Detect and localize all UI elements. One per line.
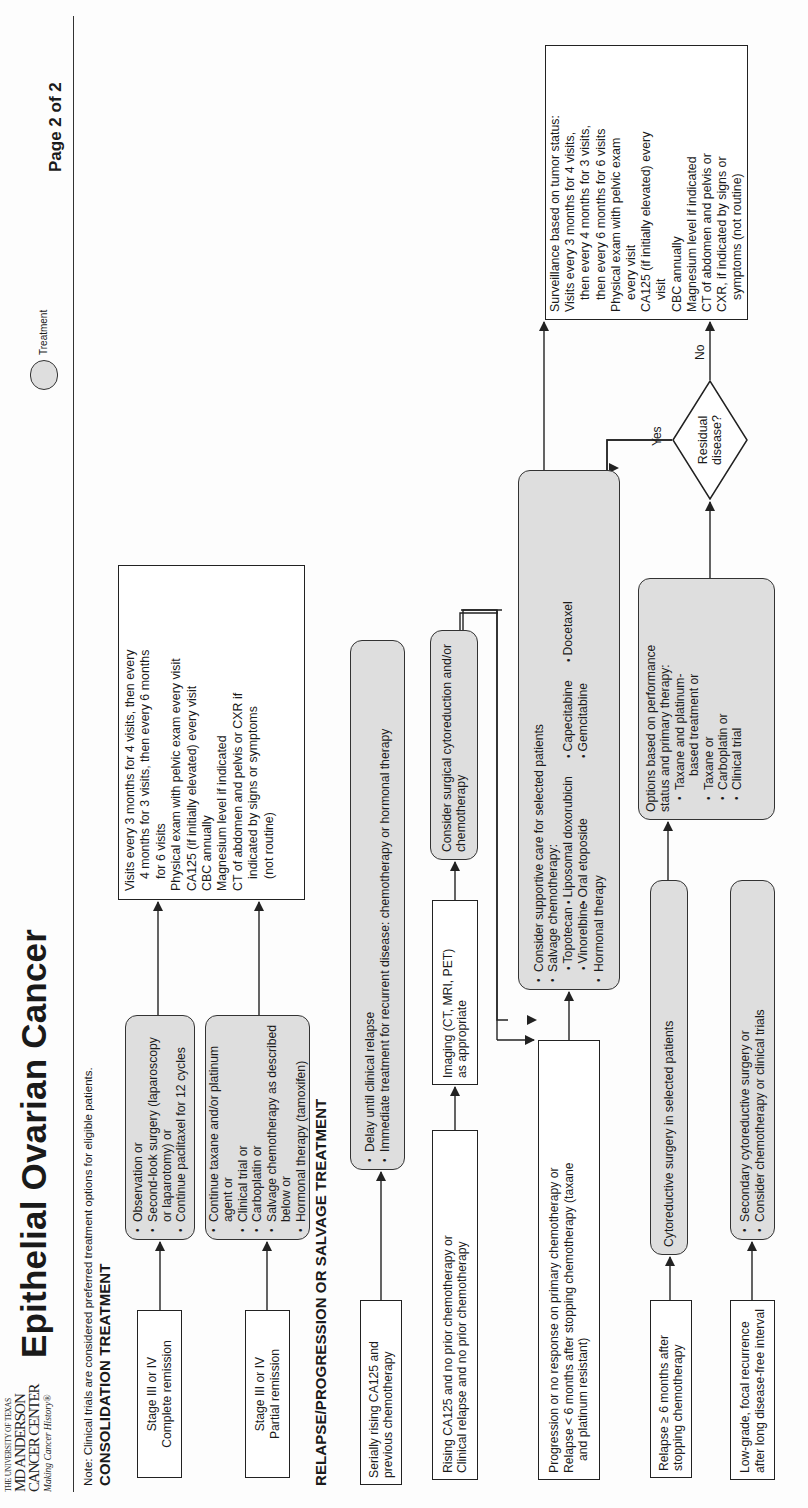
treatment-item: Continue taxane and/or platinum agent or xyxy=(207,1023,236,1232)
flowchart-page: THE UNIVERSITY OF TEXAS MD ANDERSON CANC… xyxy=(0,0,808,1508)
surveillance-line: Visits every 3 months for 4 visits, then… xyxy=(123,574,138,891)
decision-yes-label: Yes xyxy=(650,426,664,446)
decision-label-line: disease? xyxy=(710,400,724,480)
decision-label: Residual disease? xyxy=(696,400,724,480)
condition-no-prior-chemotherapy: Rising CA125 and no prior chemotherapy o… xyxy=(432,1130,478,1480)
imaging-step: Imaging (CT, MRI, PET) as appropriate xyxy=(432,900,478,1085)
treatment-item: Secondary cytoreductive surgery or xyxy=(738,888,752,1232)
logo-line-3: CANCER CENTER xyxy=(27,1362,41,1492)
surveillance-line: Magnesium level if indicated xyxy=(685,53,700,312)
condition-late-relapse: Relapse ≥ 6 months after stopping chemot… xyxy=(650,1300,692,1478)
surveillance-line: CBC annually xyxy=(200,574,215,891)
condition-line: Progression or no response on primary ch… xyxy=(547,1047,561,1473)
treatment-partial-remission: Continue taxane and/or platinum agent or… xyxy=(205,1015,310,1240)
options-intro-line: Options based on performance xyxy=(644,586,658,812)
option-item-continuation: based treatment or xyxy=(687,586,701,812)
surveillance-line: CT of abdomen and pelvis or CXR if xyxy=(231,574,246,891)
surveillance-line: 4 months for 3 visits, then every 6 mont… xyxy=(138,574,153,891)
surveillance-line: then every 6 months for 6 visits xyxy=(594,53,609,312)
decision-no-label: No xyxy=(693,345,707,360)
treatment-salvage-chemotherapy: Consider supportive care for selected pa… xyxy=(518,470,620,990)
surveillance-consolidation: Visits every 3 months for 4 visits, then… xyxy=(118,565,305,900)
condition-line: Rising CA125 and no prior chemotherapy o… xyxy=(441,1137,455,1473)
clinical-trials-note: Note: Clinical trials are considered pre… xyxy=(82,1067,94,1486)
treatment-item: Immediate treatment for recurrent diseas… xyxy=(378,648,392,1162)
drug-topotecan: Topotecan xyxy=(561,907,575,963)
surveillance-relapse: Surveillance based on tumor status: Visi… xyxy=(545,45,748,320)
condition-line: Relapse < 6 months after stopping chemot… xyxy=(562,1047,576,1473)
treatment-item: Continue paclitaxel for 12 cycles xyxy=(174,1023,188,1232)
treatment-line: chemotherapy xyxy=(454,638,468,852)
treatment-item: Observation or xyxy=(131,1023,145,1232)
surveillance-line: CBC annually xyxy=(670,53,685,312)
surveillance-line: for 6 visits xyxy=(154,574,169,891)
option-item: Taxane or xyxy=(702,586,716,812)
condition-line: Low-grade, focal recurrence xyxy=(738,1307,752,1473)
condition-line: Complete remission xyxy=(160,1317,174,1471)
treatment-complete-remission: Observation or Second-look surgery (lapa… xyxy=(125,1015,195,1240)
header-divider xyxy=(73,16,74,1492)
decision-label-line: Residual xyxy=(696,400,710,480)
treatment-item: Hormonal therapy xyxy=(592,478,606,982)
surveillance-line: then every 4 months for 3 visits, xyxy=(578,53,593,312)
condition-line: stopping chemotherapy xyxy=(671,1307,685,1471)
treatment-item: Carboplatin or xyxy=(250,1023,264,1232)
treatment-item: Delay until clinical relapse xyxy=(363,648,377,1162)
treatment-item: Hormonal therapy (tamoxifen) xyxy=(294,1023,308,1232)
condition-line: and platinum resistant) xyxy=(576,1047,590,1473)
surveillance-line: CT of abdomen and pelvis or xyxy=(700,53,715,312)
option-item: Taxane and platinum- xyxy=(673,586,687,812)
page-indicator: Page 2 of 2 xyxy=(46,82,66,172)
condition-line: Relapse ≥ 6 months after xyxy=(657,1307,671,1471)
page-title: Epithelial Ovarian Cancer xyxy=(14,929,54,1358)
treatment-line: Consider surgical cytoreduction and/or xyxy=(440,638,454,852)
surveillance-line: Physical exam with pelvic exam xyxy=(609,53,624,312)
options-intro-line: status and primary therapy: xyxy=(658,586,672,812)
condition-complete-remission: Stage III or IV Complete remission xyxy=(137,1310,182,1478)
treatment-options-performance-status: Options based on performance status and … xyxy=(638,578,775,820)
section-consolidation: CONSOLIDATION TREATMENT xyxy=(96,1263,113,1486)
surveillance-line: visit xyxy=(654,53,669,312)
logo-tagline: Making Cancer History® xyxy=(41,1362,55,1492)
option-item: Clinical trial xyxy=(730,586,744,812)
condition-low-grade-focal: Low-grade, focal recurrence after long d… xyxy=(730,1300,775,1480)
condition-line: Serially rising CA125 and xyxy=(367,1307,381,1478)
logo-line-2: MD ANDERSON xyxy=(13,1362,27,1492)
salvage-drugs-row-2: •Vinorelbine •Oral etoposide •Gemcitabin… xyxy=(576,478,591,982)
condition-line: Stage III or IV xyxy=(145,1317,159,1471)
institution-logo: THE UNIVERSITY OF TEXAS MD ANDERSON CANC… xyxy=(4,1362,55,1492)
option-item: Carboplatin or xyxy=(716,586,730,812)
treatment-item: Salvage chemotherapy as described below … xyxy=(265,1023,294,1232)
treatment-serially-rising: Delay until clinical relapse Immediate t… xyxy=(350,640,405,1170)
drug-oral-etoposide: Oral etoposide xyxy=(576,818,590,897)
surveillance-line: Magnesium level if indicated xyxy=(215,574,230,891)
salvage-drugs-row-1: •Topotecan •Liposomal doxorubicin •Capec… xyxy=(561,478,576,982)
surveillance-line: CXR, if indicated by signs or xyxy=(715,53,730,312)
surveillance-line: (not routine) xyxy=(262,574,277,891)
condition-line: Clinical relapse and no prior chemothera… xyxy=(455,1137,469,1473)
surveillance-line: Surveillance based on tumor status: xyxy=(548,53,563,312)
treatment-item: Salvage chemotherapy: xyxy=(546,478,560,982)
treatment-item: Clinical trial or xyxy=(236,1023,250,1232)
condition-partial-remission: Stage III or IV Partial remission xyxy=(245,1310,290,1478)
condition-progression-platinum-resistant: Progression or no response on primary ch… xyxy=(538,1040,600,1480)
treatment-item: Consider chemotherapy or clinical trials xyxy=(753,888,767,1232)
surveillance-line: CA125 (if initially elevated) every xyxy=(639,53,654,312)
surveillance-line: every visit xyxy=(624,53,639,312)
drug-liposomal-doxorubicin: Liposomal doxorubicin xyxy=(561,776,575,897)
treatment-surgical-cytoreduction: Consider surgical cytoreduction and/or c… xyxy=(430,630,478,860)
treatment-cytoreductive-surgery: Cytoreductive surgery in selected patien… xyxy=(650,880,688,1255)
surveillance-line: symptoms (not routine) xyxy=(730,53,745,312)
surveillance-line: Physical exam with pelvic exam every vis… xyxy=(169,574,184,891)
condition-line: previous chemotherapy xyxy=(381,1307,395,1478)
surveillance-line: indicated by signs or symptoms xyxy=(246,574,261,891)
surveillance-line: CA125 (if initially elevated) every visi… xyxy=(185,574,200,891)
drug-docetaxel: Docetaxel xyxy=(561,601,575,655)
drug-capecitabine: Capecitabine xyxy=(561,680,575,751)
condition-line: after long disease-free interval xyxy=(753,1307,767,1473)
treatment-item: Consider supportive care for selected pa… xyxy=(532,478,546,982)
treatment-secondary-cytoreduction: Secondary cytoreductive surgery or Consi… xyxy=(730,880,775,1240)
treatment-item: Second-look surgery (laparoscopy or lapa… xyxy=(146,1023,175,1232)
condition-line: Stage III or IV xyxy=(253,1317,267,1471)
section-relapse: RELAPSE/PROGRESSION OR SALVAGE TREATMENT xyxy=(312,1099,329,1486)
